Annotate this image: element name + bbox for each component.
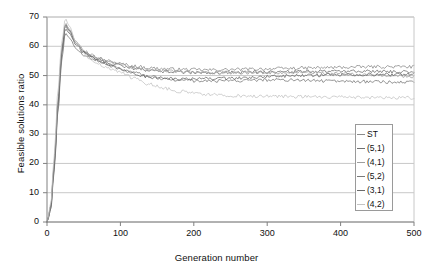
legend-item-label: (3,1) bbox=[367, 185, 384, 195]
legend-item-51[interactable]: (5,1) bbox=[356, 141, 392, 155]
legend-item-42[interactable]: (4,2) bbox=[356, 197, 392, 211]
legend-swatch-icon bbox=[357, 176, 365, 177]
legend-swatch-icon bbox=[357, 134, 365, 135]
legend-swatch-icon bbox=[357, 204, 365, 205]
x-tick-label: 500 bbox=[399, 228, 429, 238]
legend-swatch-icon bbox=[357, 148, 365, 149]
y-tick-label: 70 bbox=[13, 11, 39, 21]
legend-item-label: (5,1) bbox=[367, 143, 384, 153]
legend-item-label: (5,2) bbox=[367, 171, 384, 181]
legend-swatch-icon bbox=[357, 162, 365, 163]
legend-swatch-icon bbox=[357, 190, 365, 191]
legend-item-52[interactable]: (5,2) bbox=[356, 169, 392, 183]
legend: ST(5,1)(4,1)(5,2)(3,1)(4,2) bbox=[355, 124, 393, 211]
chart-container: 010203040506070 0100200300400500 Generat… bbox=[0, 0, 433, 276]
x-tick-label: 300 bbox=[252, 228, 282, 238]
legend-item-label: ST bbox=[367, 129, 378, 139]
legend-item-ST[interactable]: ST bbox=[356, 127, 392, 141]
legend-item-label: (4,2) bbox=[367, 199, 384, 209]
x-tick-label: 400 bbox=[326, 228, 356, 238]
x-tick-label: 0 bbox=[32, 228, 62, 238]
y-axis-title: Feasible solutions ratio bbox=[15, 34, 26, 214]
legend-item-41[interactable]: (4,1) bbox=[356, 155, 392, 169]
x-tick-label: 100 bbox=[105, 228, 135, 238]
legend-item-label: (4,1) bbox=[367, 157, 384, 167]
x-axis-title: Generation number bbox=[0, 252, 433, 263]
y-tick-label: 0 bbox=[13, 216, 39, 226]
x-tick-label: 200 bbox=[179, 228, 209, 238]
legend-item-31[interactable]: (3,1) bbox=[356, 183, 392, 197]
